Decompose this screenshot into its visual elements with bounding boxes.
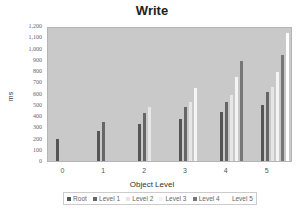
x-axis-label: Object Level bbox=[0, 180, 304, 189]
x-tick-label: 4 bbox=[216, 167, 236, 174]
legend-swatch-icon bbox=[226, 197, 230, 201]
y-tick-label: 500 bbox=[12, 102, 42, 108]
legend-item: Root bbox=[67, 195, 87, 202]
legend-label: Level 1 bbox=[99, 195, 120, 202]
x-tick-label: 0 bbox=[52, 167, 72, 174]
legend-item: Level 4 bbox=[193, 195, 220, 202]
x-tick-label: 2 bbox=[134, 167, 154, 174]
bar bbox=[276, 72, 279, 161]
bar bbox=[148, 107, 151, 161]
x-tick-label: 5 bbox=[257, 167, 277, 174]
y-tick-label: 100 bbox=[12, 147, 42, 153]
bar bbox=[271, 87, 274, 161]
bar bbox=[143, 113, 146, 161]
bar bbox=[281, 55, 284, 161]
bar bbox=[261, 105, 264, 161]
legend-label: Level 3 bbox=[165, 195, 186, 202]
bar bbox=[194, 88, 197, 161]
y-tick-label: 1,100 bbox=[12, 34, 42, 40]
bar bbox=[240, 61, 243, 161]
legend-label: Root bbox=[73, 195, 87, 202]
bar bbox=[235, 77, 238, 161]
bar bbox=[184, 107, 187, 161]
plot-area bbox=[47, 27, 292, 162]
y-tick-label: 800 bbox=[12, 68, 42, 74]
bar bbox=[97, 131, 100, 161]
x-tick-label: 3 bbox=[175, 167, 195, 174]
legend-item: Level 5 bbox=[226, 195, 253, 202]
y-tick-label: 200 bbox=[12, 136, 42, 142]
bar bbox=[286, 33, 289, 161]
legend-item: Level 2 bbox=[126, 195, 153, 202]
bar bbox=[230, 95, 233, 162]
bar bbox=[220, 112, 223, 161]
x-tick-label: 1 bbox=[93, 167, 113, 174]
legend-swatch-icon bbox=[159, 197, 163, 201]
legend-item: Level 3 bbox=[159, 195, 186, 202]
y-tick-label: 700 bbox=[12, 79, 42, 85]
y-tick-label: 0 bbox=[12, 158, 42, 164]
legend-swatch-icon bbox=[93, 197, 97, 201]
bar bbox=[225, 102, 228, 161]
chart-legend: RootLevel 1Level 2Level 3Level 4Level 5 bbox=[63, 192, 257, 205]
legend-swatch-icon bbox=[126, 197, 130, 201]
y-tick-label: 600 bbox=[12, 91, 42, 97]
y-tick-label: 300 bbox=[12, 124, 42, 130]
y-tick-label: 1,200 bbox=[12, 23, 42, 29]
bar bbox=[189, 102, 192, 161]
y-tick-label: 400 bbox=[12, 113, 42, 119]
y-tick-label: 900 bbox=[12, 57, 42, 63]
legend-label: Level 5 bbox=[232, 195, 253, 202]
bar bbox=[266, 92, 269, 161]
legend-swatch-icon bbox=[67, 197, 71, 201]
bar bbox=[138, 124, 141, 161]
bar bbox=[102, 122, 105, 161]
chart-title: Write bbox=[0, 3, 304, 18]
y-tick-label: 1,000 bbox=[12, 46, 42, 52]
legend-swatch-icon bbox=[193, 197, 197, 201]
bar bbox=[179, 119, 182, 161]
legend-label: Level 4 bbox=[199, 195, 220, 202]
legend-label: Level 2 bbox=[132, 195, 153, 202]
legend-item: Level 1 bbox=[93, 195, 120, 202]
bar bbox=[56, 139, 59, 161]
